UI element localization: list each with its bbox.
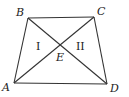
side-cd [94,17,107,84]
trapezoid-diagram: B C A D E I II [0,0,129,97]
intersection-label-e: E [55,51,64,64]
region-label-ii: II [76,40,85,53]
vertex-label-b: B [15,6,24,19]
vertex-label-c: C [97,5,106,18]
region-label-i: I [36,40,40,53]
side-da [14,83,107,84]
vertex-label-d: D [109,82,119,95]
side-bc [28,17,94,18]
vertex-label-a: A [1,81,10,94]
